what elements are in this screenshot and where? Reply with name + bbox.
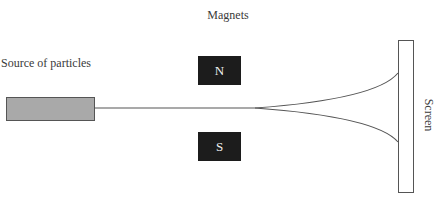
particle-beam-paths [0,0,444,199]
detection-screen [398,40,414,193]
deflected-beam-down [255,108,398,142]
deflected-beam-up [255,73,398,108]
